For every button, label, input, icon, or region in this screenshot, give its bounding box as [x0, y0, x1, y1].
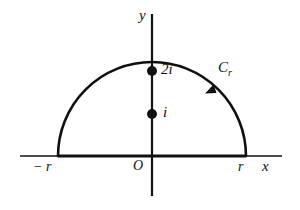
origin-label: O	[133, 159, 143, 173]
point-marker-2i	[147, 66, 157, 76]
point-label-i: i	[163, 105, 167, 120]
contour-label-subscript: r	[228, 67, 232, 78]
tick-label-minus-r: − r	[33, 160, 51, 174]
tick-label-r: r	[238, 160, 243, 174]
contour-label-base: C	[218, 59, 228, 75]
diagram-background	[0, 0, 300, 210]
contour-diagram	[0, 0, 300, 210]
contour-label-cr: Cr	[218, 60, 232, 78]
y-axis-label: y	[139, 8, 146, 23]
point-marker-i	[147, 109, 157, 119]
point-label-2i: 2i	[161, 62, 173, 77]
x-axis-label: x	[262, 159, 269, 174]
